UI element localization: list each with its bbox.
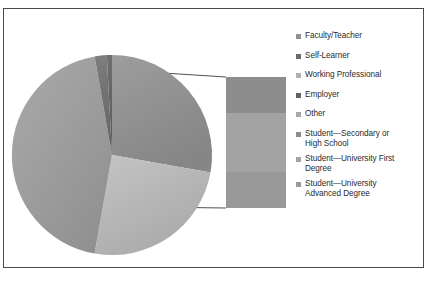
legend-swatch-icon xyxy=(296,182,301,187)
legend-swatch-icon xyxy=(296,112,301,117)
legend-item-student-university-advanced-degree: Student—University Advanced Degree xyxy=(296,179,426,200)
legend-label: Other xyxy=(305,109,325,120)
legend-label: Student—University Advanced Degree xyxy=(305,179,376,200)
legend-swatch-icon xyxy=(296,34,301,39)
legend-label: Faculty/Teacher xyxy=(305,31,362,42)
legend-label: Working Professional xyxy=(305,70,381,81)
legend-label: Student—University First Degree xyxy=(305,154,394,175)
chart-page: Faculty/Teacher Self-Learner Working Pro… xyxy=(0,0,434,281)
pie-slice-faculty-teacher xyxy=(112,55,212,172)
legend-item-employer: Employer xyxy=(296,90,426,101)
legend-swatch-icon xyxy=(296,54,301,59)
stacked-bar xyxy=(226,77,286,208)
legend-swatch-icon xyxy=(296,132,301,137)
legend-label: Employer xyxy=(305,90,339,101)
legend-label: Student—Secondary or High School xyxy=(305,129,389,150)
legend-label: Self-Learner xyxy=(305,51,349,62)
pie-slice-working-professional xyxy=(12,57,112,254)
bar-segment-student-university-advanced-degree xyxy=(226,172,286,208)
legend-item-self-learner: Self-Learner xyxy=(296,51,426,62)
pie-slice-other xyxy=(95,155,211,255)
legend-item-working-professional: Working Professional xyxy=(296,70,426,81)
plot-area: Faculty/Teacher Self-Learner Working Pro… xyxy=(0,0,434,281)
legend-swatch-icon xyxy=(296,157,301,162)
legend-swatch-icon xyxy=(296,93,301,98)
legend-item-faculty-teacher: Faculty/Teacher xyxy=(296,31,426,42)
legend-swatch-icon xyxy=(296,73,301,78)
legend-item-student-secondary-or-high-school: Student—Secondary or High School xyxy=(296,129,426,150)
legend-item-student-university-first-degree: Student—University First Degree xyxy=(296,154,426,175)
legend-item-other: Other xyxy=(296,109,426,120)
bar-segment-student-secondary-or-high-school xyxy=(226,77,286,113)
bar-segment-student-university-first-degree xyxy=(226,113,286,172)
chart-legend: Faculty/Teacher Self-Learner Working Pro… xyxy=(296,31,426,204)
